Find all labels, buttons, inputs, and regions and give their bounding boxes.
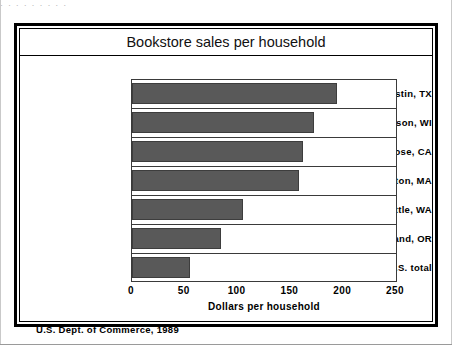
- x-tick-label: 100: [228, 285, 246, 296]
- bar-row: [132, 196, 396, 225]
- x-tick-label: 200: [333, 285, 351, 296]
- bar: [132, 199, 243, 220]
- bar-row: [132, 80, 396, 109]
- bar: [132, 170, 299, 191]
- x-tick-label: 50: [178, 285, 190, 296]
- page-bottom-edge: [0, 344, 452, 345]
- x-tick-label: 150: [280, 285, 298, 296]
- bar-row: [132, 254, 396, 283]
- bar: [132, 112, 314, 133]
- plot-wrapper: Austin, TXMadison, WISan Jose, CABoston,…: [20, 56, 432, 321]
- bar-row: [132, 109, 396, 138]
- chart-title: Bookstore sales per household: [20, 29, 432, 56]
- plot-area: [131, 79, 397, 282]
- bar-row: [132, 225, 396, 254]
- bar: [132, 257, 190, 278]
- scan-artifact-text: · · · · · · · · ·: [0, 0, 452, 12]
- bar: [132, 83, 337, 104]
- x-axis-title: Dollars per household: [131, 301, 397, 312]
- bar: [132, 228, 221, 249]
- x-axis-tick-labels: 050100150200250: [131, 285, 397, 299]
- x-tick-label: 250: [386, 285, 404, 296]
- bar-row: [132, 167, 396, 196]
- figure-inner-frame: Bookstore sales per household Austin, TX…: [19, 28, 433, 322]
- bar: [132, 141, 303, 162]
- source-note: U.S. Dept. of Commerce, 1989: [36, 324, 179, 335]
- figure-outer-frame: Bookstore sales per household Austin, TX…: [14, 23, 438, 327]
- page-left-edge: [0, 0, 1, 345]
- x-tick-label: 0: [128, 285, 134, 296]
- bar-row: [132, 138, 396, 167]
